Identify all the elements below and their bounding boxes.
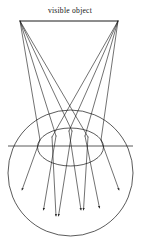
object-label: visible object xyxy=(48,6,93,15)
ray-R2-refracted xyxy=(85,136,100,208)
ray-L3-refracted xyxy=(59,131,73,216)
ray-R2-incident xyxy=(85,21,118,136)
ray-R1-refracted xyxy=(101,140,119,190)
ray-R3-refracted xyxy=(69,131,81,210)
ray-diagram-figure: visible object xyxy=(0,0,141,244)
eyeball-outline xyxy=(8,110,133,236)
ray-diagram-canvas: visible object xyxy=(0,0,141,244)
ray-R1-incident xyxy=(101,21,118,140)
ray-L1-incident xyxy=(20,21,40,140)
ray-bundle-left xyxy=(20,21,88,140)
ray-L4-incident xyxy=(20,21,88,137)
ray-L1-refracted xyxy=(22,140,40,190)
ray-R4-incident xyxy=(52,21,118,137)
refracted-ray-bundle xyxy=(22,131,119,216)
lens-outline xyxy=(38,128,104,166)
